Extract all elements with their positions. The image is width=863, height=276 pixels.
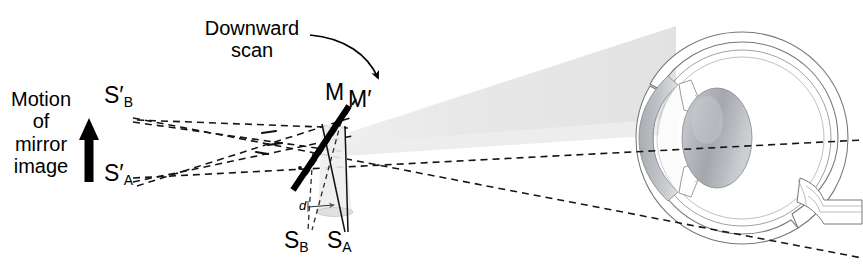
diagram-svg [0,0,863,276]
motion-label-line2: of [8,110,74,132]
real-source-a-label: SA [327,228,352,256]
mirror-m-label: M [325,80,344,106]
eye-group [636,32,862,244]
virtual-source-a-symbol: S [104,160,119,186]
real-source-a-symbol: S [327,227,342,253]
real-source-b-label: SB [284,228,309,256]
separation-d-label: d [299,199,306,214]
separation-d-symbol: d [299,198,306,213]
ray-convergence-marks [256,131,302,170]
ray-sa-prime-2 [133,136,352,182]
mirror-m-prime-label: M′ [348,87,371,113]
virtual-source-b-subscript: B [124,94,133,110]
eye-lens-highlight [691,96,723,144]
real-source-a-subscript: A [342,239,351,255]
downward-scan-arrow [310,35,378,78]
figure-canvas: Motion of mirror image Downward scan S′B… [0,0,863,276]
mirror-m-prime-symbol: M [348,86,367,112]
virtual-source-b-symbol: S [104,82,119,108]
virtual-source-a-label: S′A [104,161,133,189]
ray-sb-prime-2 [133,122,345,152]
virtual-source-a-subscript: A [124,172,133,188]
mirror-m-prime-mark: ′ [367,86,371,112]
motion-up-arrow [79,118,99,182]
motion-label-line4: image [8,155,74,177]
real-source-b-subscript: B [299,239,308,255]
motion-label-line1: Motion [8,88,74,110]
motion-label-line3: mirror [8,133,74,155]
motion-of-mirror-image-label: Motion of mirror image [8,88,74,178]
real-source-b-symbol: S [284,227,299,253]
scan-label-line1: Downward [196,17,308,39]
downward-scan-label: Downward scan [196,17,308,62]
scan-label-line2: scan [196,39,308,61]
virtual-source-b-label: S′B [104,83,133,111]
mirror-m-symbol: M [325,79,344,105]
light-beam-group [344,26,676,156]
ray-cross-1 [137,120,348,128]
